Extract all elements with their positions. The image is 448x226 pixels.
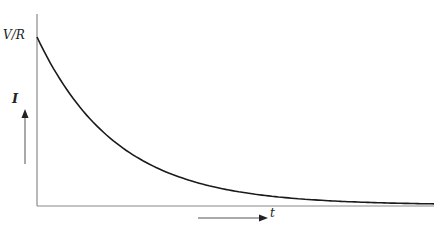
chart-canvas: [0, 0, 448, 226]
decay-curve: [37, 37, 434, 204]
y-axis-label: I: [12, 91, 18, 106]
x-axis-label: t: [270, 206, 275, 220]
y-tick-label-v-over-r: V/R: [3, 28, 25, 42]
y-direction-arrow: [22, 109, 29, 164]
x-direction-arrow: [198, 215, 268, 222]
